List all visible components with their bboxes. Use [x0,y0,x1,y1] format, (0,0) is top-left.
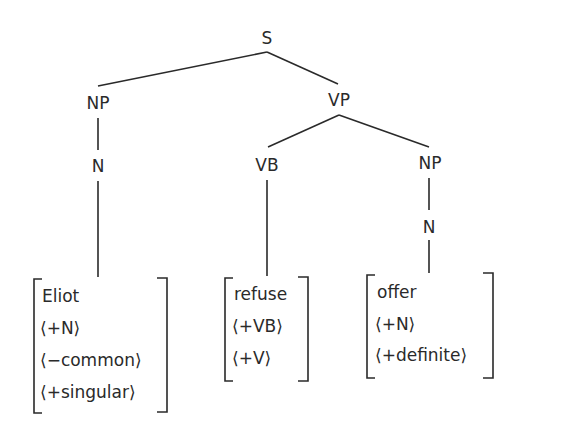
edge-s-np [98,52,267,86]
node-n-object: N [423,219,436,236]
entry-word: offer [377,282,417,302]
entry-feature: ⟨+definite⟩ [375,345,467,365]
entry-feature: ⟨+VB⟩ [232,316,283,336]
node-np-subject: NP [87,95,110,112]
node-np-object: NP [419,155,442,172]
entry-feature: ⟨+N⟩ [375,314,415,334]
bracket-right-refuse [298,277,308,381]
node-vb: VB [255,157,278,174]
entry-word: refuse [234,284,287,304]
node-vp: VP [328,92,350,109]
entry-feature: ⟨+V⟩ [232,348,271,368]
edge-vp-vb [268,115,339,147]
entry-feature: ⟨+N⟩ [40,318,80,338]
edge-s-vp [267,52,338,84]
edge-vp-np [339,115,429,147]
node-s: S [262,30,273,47]
node-n-subject: N [92,158,105,175]
bracket-left-offer [367,275,375,378]
bracket-right-eliot [157,278,167,412]
bracket-right-offer [483,273,493,378]
entry-word: Eliot [42,286,79,306]
entry-feature: ⟨+singular⟩ [40,382,136,402]
entry-feature: ⟨−common⟩ [40,350,142,370]
